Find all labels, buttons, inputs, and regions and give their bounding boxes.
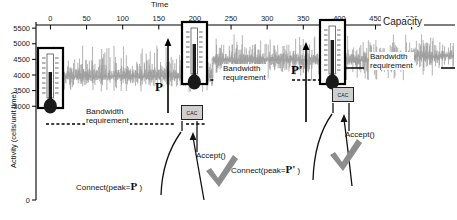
checkmark-2-icon [330,139,362,171]
connect-arrow-2 [313,114,332,180]
x-axis-ticks: 050100150200250300350400450500 [48,14,418,30]
connect-label-2: Connect(peak=P' ) [231,163,300,175]
x-tick-label: 0 [48,14,52,23]
bw-line-1a: Bandwidth [86,107,129,116]
x-tick-label: 250 [225,14,238,23]
y-tick-label: 5000 [13,39,30,48]
y-tick-label: 4000 [13,71,30,80]
y-tick-label: 5500 [13,24,30,33]
connect-suffix-1: ) [137,183,142,192]
x-tick-label: 450 [369,14,382,23]
bw-line-1b: requirement [86,116,129,125]
y-tick-label: 0 [26,196,30,205]
connect-prefix-1: Connect(peak= [76,183,130,192]
x-tick-label: 50 [82,14,90,23]
figure-root: 050100150200250300350400450500 030003500… [0,0,457,220]
x-tick-label: 300 [261,14,274,23]
bandwidth-requirement-label-1: Bandwidth requirement [85,107,130,125]
bw-line-3b: requirement [370,61,413,70]
bw-line-2a: Bandwidth [223,64,266,73]
x-tick-label: 150 [153,14,166,23]
bw-line-2b: requirement [223,73,266,82]
capacity-label: Capacity [381,17,424,27]
bw-line-3a: Bandwidth [370,52,413,61]
peak-p-label: P [155,79,163,95]
peak-p-prime-label: P' [291,62,303,78]
bandwidth-requirement-label-2: Bandwidth requirement [222,64,267,82]
thermometer-2-icon [178,20,214,92]
connect-label-1: Connect(peak=P ) [76,180,142,192]
x-tick-label: 350 [297,14,310,23]
accept-label-1: Accept() [196,151,226,160]
connect-arrow-1 [161,132,181,195]
bandwidth-requirement-label-3: Bandwidth requirement [369,52,414,70]
cac-box-1[interactable]: CAC [181,105,203,120]
y-axis-title: Activity (cells/unit time) [9,92,18,168]
connect-peak-2: P' [285,163,295,175]
accept-label-2: Accept() [345,130,375,139]
thermometer-3-icon [316,18,352,92]
thermometer-1-icon [34,46,70,116]
y-tick-label: 4500 [13,55,30,64]
connect-prefix-2: Connect(peak= [231,166,285,175]
x-tick-label: 100 [116,14,129,23]
cac-box-2[interactable]: CAC [332,87,354,102]
x-axis-title: Time [151,1,168,9]
connect-suffix-2: ) [295,166,300,175]
